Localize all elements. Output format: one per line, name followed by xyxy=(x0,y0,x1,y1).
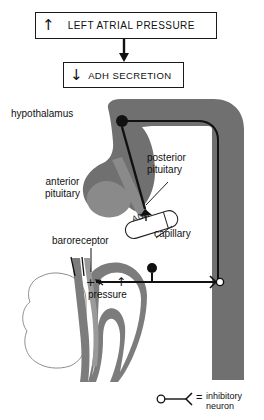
adh-secretion-box[interactable]: ↓ ADH SECRETION xyxy=(63,62,184,88)
posterior-pituitary-label-line1: posterior xyxy=(147,152,186,164)
left-atrial-pressure-box[interactable]: ↑ LEFT ATRIAL PRESSURE xyxy=(35,12,217,39)
pressure-label: pressure xyxy=(88,289,127,301)
pressure-up-arrow-icon: ↑ xyxy=(116,276,126,288)
plus-sign-symbol: + xyxy=(86,277,95,288)
legend-text-line1: inhibitory xyxy=(206,391,262,401)
legend-text: inhibitory neuron xyxy=(206,391,262,411)
anterior-pituitary-label: anterior pituitary xyxy=(45,176,80,199)
afferent-terminal-bouton xyxy=(147,263,157,273)
anterior-pituitary-label-line1: anterior xyxy=(45,176,80,188)
diagram-canvas: ↑ LEFT ATRIAL PRESSURE ↓ ADH SECRETION h… xyxy=(0,0,264,420)
legend-equals-sign: = xyxy=(196,391,202,403)
capillary-label: capillary xyxy=(154,228,191,240)
flow-arrow-lap-to-adh xyxy=(119,39,129,62)
adh-secretion-label: ADH SECRETION xyxy=(87,70,183,81)
legend-symbol xyxy=(157,393,192,405)
posterior-pituitary-label-line2: pituitary xyxy=(147,164,186,176)
baroreceptor-label: baroreceptor xyxy=(52,235,109,247)
left-atrial-pressure-label: LEFT ATRIAL PRESSURE xyxy=(59,20,216,31)
up-arrow-icon: ↑ xyxy=(42,18,55,33)
legend-text-line2: neuron xyxy=(206,401,262,411)
hypothalamic-neuron-soma xyxy=(116,115,128,127)
hypothalamus-label: hypothalamus xyxy=(11,108,73,120)
anterior-pituitary-label-line2: pituitary xyxy=(45,188,80,200)
down-arrow-icon: ↓ xyxy=(70,68,83,83)
posterior-pituitary-label: posterior pituitary xyxy=(147,152,186,175)
